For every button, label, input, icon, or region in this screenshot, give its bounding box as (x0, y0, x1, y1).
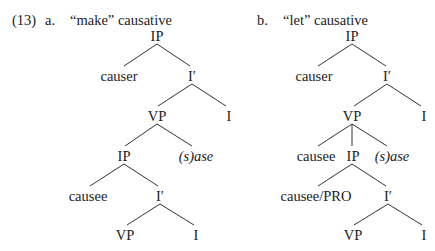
tree-a-node-i-1: I (227, 108, 232, 124)
tree-a-node-ibar-1: I′ (188, 68, 196, 84)
tree-a-node-ip-root: IP (151, 28, 164, 44)
tree-a-node-vp-2: VP (116, 227, 135, 243)
tree-b-node-i-2: I (422, 227, 427, 243)
tree-b-node-vp-2: VP (344, 227, 363, 243)
example-number: (13) (12, 12, 36, 28)
tree-b-node-causer: causer (295, 68, 332, 84)
tree-b-node-ip-2: IP (347, 148, 360, 164)
tree-b-node-causee-pro: causee/PRO (281, 188, 352, 204)
tree-b-node-sase: (s)ase (375, 148, 410, 164)
tree-a-node-i-2: I (194, 227, 199, 243)
tree-b-node-ibar-1: I′ (383, 68, 391, 84)
tree-a-node-ip-2: IP (118, 148, 131, 164)
tree-b-node-ibar-2: I′ (384, 188, 392, 204)
tree-a-node-ibar-2: I′ (156, 188, 164, 204)
tree-b-title: “let” causative (283, 12, 368, 28)
tree-a-letter: a. (45, 12, 55, 28)
tree-a-node-causer: causer (100, 68, 137, 84)
tree-a-node-causee: causee (69, 188, 108, 204)
tree-edges (0, 0, 435, 251)
tree-b-letter: b. (257, 12, 268, 28)
tree-b-node-causee: causee (297, 148, 336, 164)
tree-a-title: “make” causative (70, 12, 172, 28)
tree-a-node-vp-1: VP (148, 108, 167, 124)
tree-b-node-i-1: I (422, 108, 427, 124)
tree-a-node-sase: (s)ase (179, 148, 214, 164)
tree-b-node-vp-1: VP (343, 108, 362, 124)
tree-b-node-ip-root: IP (346, 28, 359, 44)
